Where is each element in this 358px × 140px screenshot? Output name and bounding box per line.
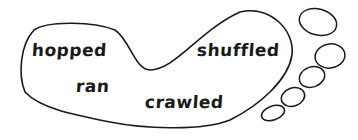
word-hopped: hopped — [31, 40, 107, 60]
toe-2 — [313, 42, 347, 71]
word-shuffled: shuffled — [196, 40, 280, 60]
toe-5 — [259, 102, 286, 123]
footprint-outline — [0, 0, 358, 140]
word-crawled: crawled — [144, 92, 224, 112]
word-ran: ran — [75, 76, 110, 96]
footprint-diagram: hopped ran shuffled crawled — [0, 0, 358, 140]
toe-big — [296, 5, 339, 40]
toe-4 — [279, 84, 308, 109]
